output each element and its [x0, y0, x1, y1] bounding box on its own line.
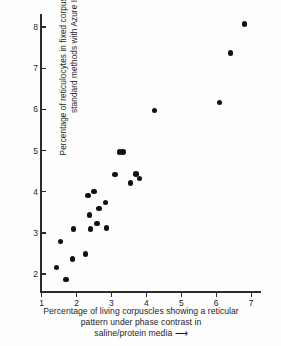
y-axis-title-line-1: Percentage of reticulocytes in fixed cor… [59, 0, 70, 165]
y-tick-label: 5 [33, 146, 38, 155]
x-axis-title-line-3: saline/protein media ⟶ [16, 328, 266, 339]
data-point [83, 251, 88, 256]
data-point [58, 239, 63, 244]
data-point [96, 206, 101, 211]
x-tick: 1 [41, 292, 42, 297]
x-tick: 6 [216, 292, 217, 297]
y-tick-label: 7 [33, 64, 38, 73]
y-axis-title-line-2: standard methods with Azure II ⟶ [69, 0, 80, 165]
x-tick: 4 [146, 292, 147, 297]
y-tick-label: 2 [33, 270, 38, 279]
x-axis-title-line-1: Percentage of living corpuscles showing … [16, 306, 266, 317]
data-point [242, 21, 247, 26]
x-tick: 5 [181, 292, 182, 297]
data-point [128, 180, 133, 185]
data-point [112, 172, 117, 177]
data-point [88, 226, 93, 231]
data-point [71, 226, 76, 231]
x-tick: 7 [251, 292, 252, 297]
data-point [228, 50, 233, 55]
x-tick: 3 [111, 292, 112, 297]
y-tick-label: 3 [33, 229, 38, 238]
x-axis-title-line-2: pattern under phase contrast in [16, 317, 266, 328]
y-tick-label: 6 [33, 105, 38, 114]
x-tick: 2 [76, 292, 77, 297]
data-point [91, 189, 96, 194]
x-axis-title: Percentage of living corpuscles showing … [16, 306, 266, 339]
data-point [85, 193, 90, 198]
data-point [70, 256, 75, 261]
y-axis-title: Percentage of reticulocytes in fixed cor… [59, 0, 80, 165]
data-point [94, 221, 99, 226]
data-point [87, 212, 92, 217]
scatter-plot-figure: 2345678 1234567 Percentage of reticulocy… [0, 0, 281, 346]
y-tick-label: 8 [33, 23, 38, 32]
data-point [120, 149, 125, 154]
y-tick-label: 4 [33, 187, 38, 196]
